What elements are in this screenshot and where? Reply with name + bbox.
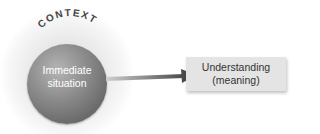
arrow: [106, 69, 196, 83]
sphere-label: Immediate situation: [27, 64, 107, 90]
sphere-label-line2: situation: [27, 77, 107, 90]
box-label: Understanding (meaning): [186, 61, 286, 87]
box-label-line1: Understanding: [186, 61, 286, 74]
box-label-line2: (meaning): [186, 74, 286, 87]
sphere-label-line1: Immediate: [27, 64, 107, 77]
context-label: CONTEXT: [35, 7, 99, 30]
